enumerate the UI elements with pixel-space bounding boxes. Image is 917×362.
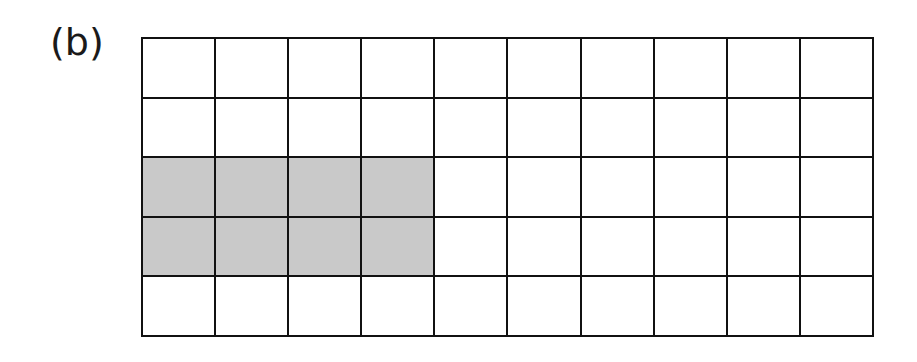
grid-cell <box>435 99 508 159</box>
grid-cell <box>143 39 216 99</box>
grid-cell <box>508 39 581 99</box>
grid-cell <box>801 218 874 278</box>
grid-cell <box>216 277 289 337</box>
grid-cell <box>216 39 289 99</box>
grid-cell <box>143 99 216 159</box>
shaded-grid-cell <box>289 158 362 218</box>
grid-cell <box>435 39 508 99</box>
grid-cell <box>582 158 655 218</box>
grid-diagram <box>141 37 874 337</box>
grid-cell <box>582 99 655 159</box>
shaded-grid-cell <box>143 158 216 218</box>
grid-cell <box>582 39 655 99</box>
grid-cell <box>216 99 289 159</box>
grid-cell <box>801 99 874 159</box>
grid-cell <box>435 218 508 278</box>
grid-cell <box>362 39 435 99</box>
grid-cell <box>508 218 581 278</box>
shaded-grid-cell <box>216 158 289 218</box>
shaded-grid-cell <box>289 218 362 278</box>
grid-cell <box>801 277 874 337</box>
grid-cell <box>508 158 581 218</box>
figure-label: (b) <box>50 23 104 61</box>
grid-cell <box>801 158 874 218</box>
grid-cell <box>655 39 728 99</box>
grid-cell <box>289 39 362 99</box>
grid-cell <box>508 99 581 159</box>
grid-cell <box>362 99 435 159</box>
grid-cell <box>728 39 801 99</box>
grid-cell <box>508 277 581 337</box>
grid-cell <box>728 158 801 218</box>
grid-cell <box>435 158 508 218</box>
shaded-grid-cell <box>143 218 216 278</box>
shaded-grid-cell <box>362 218 435 278</box>
grid-cell <box>728 277 801 337</box>
grid-cell <box>362 277 435 337</box>
grid-cell <box>728 218 801 278</box>
grid-cell <box>143 277 216 337</box>
grid-cell <box>289 277 362 337</box>
grid-cell <box>655 158 728 218</box>
grid-cell <box>655 99 728 159</box>
grid-cell <box>655 218 728 278</box>
grid-cell <box>582 277 655 337</box>
grid-cell <box>801 39 874 99</box>
grid-cell <box>289 99 362 159</box>
grid-cell <box>728 99 801 159</box>
grid-cell <box>435 277 508 337</box>
shaded-grid-cell <box>362 158 435 218</box>
grid-cell <box>655 277 728 337</box>
grid-cell <box>582 218 655 278</box>
shaded-grid-cell <box>216 218 289 278</box>
